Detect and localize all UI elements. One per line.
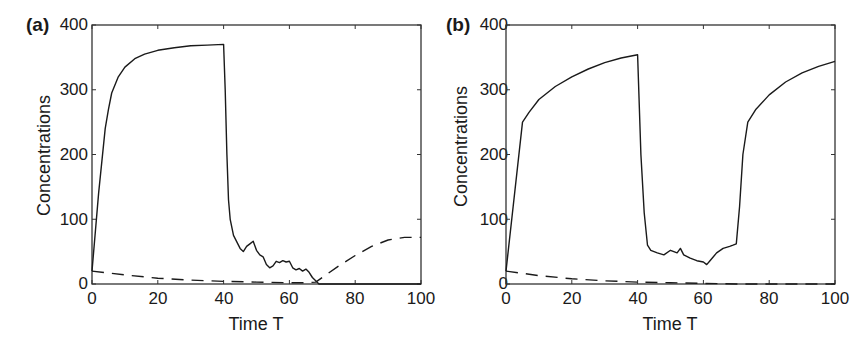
plot-area — [433, 0, 867, 356]
panel-a: (a) Concentrations Time T 400 300 200 10… — [0, 0, 433, 356]
dashed-series-line — [92, 237, 421, 282]
solid-series-line — [92, 44, 421, 284]
axes-frame — [506, 25, 835, 284]
solid-series-line — [506, 55, 835, 271]
panel-b: (b) Concentrations Time T 400 300 200 10… — [433, 0, 867, 356]
axes-frame — [92, 25, 421, 284]
plot-area — [0, 0, 433, 356]
dashed-series-line — [506, 271, 835, 284]
